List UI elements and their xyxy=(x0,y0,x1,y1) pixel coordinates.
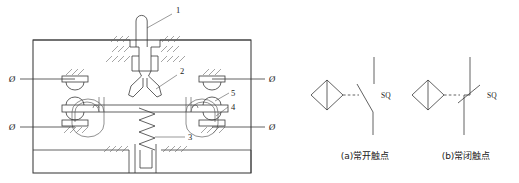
callout-4: 4 xyxy=(231,102,236,112)
callout-5: 5 xyxy=(231,88,235,98)
left-upper-hatching xyxy=(66,69,84,75)
housing-hatching-bottom xyxy=(104,146,187,152)
actuator-fork xyxy=(129,76,162,97)
right-contact-assembly xyxy=(199,69,265,133)
limit-switch-figure: Ø Ø Ø Ø 1 2 3 4 5 xyxy=(0,0,519,183)
callout-2: 2 xyxy=(180,66,184,76)
right-moving-contact xyxy=(203,97,221,105)
right-lower-contact-base xyxy=(199,120,225,126)
right-upper-contact-dome xyxy=(203,82,221,90)
terminal-left-bottom: Ø xyxy=(8,122,16,132)
top-housing xyxy=(33,36,251,71)
leader-2 xyxy=(156,75,177,89)
enclosure-outline xyxy=(33,40,251,173)
symbol-nc-contact: SQ (b)常闭触点 xyxy=(412,57,497,161)
bridge-bar xyxy=(62,105,228,112)
terminal-right-top: Ø xyxy=(268,74,276,84)
mechanism-drawing: Ø Ø Ø Ø 1 2 3 4 5 xyxy=(8,5,276,173)
figure-canvas: Ø Ø Ø Ø 1 2 3 4 5 xyxy=(0,0,519,183)
terminal-right-bottom: Ø xyxy=(268,122,276,132)
no-designator-sq: SQ xyxy=(381,91,391,100)
left-upper-contact-dome xyxy=(66,82,84,90)
callout-3: 3 xyxy=(188,132,192,142)
contact-bridge xyxy=(62,105,228,112)
left-moving-contact xyxy=(66,97,84,105)
no-caption: (a)常开触点 xyxy=(341,150,390,161)
leader-5 xyxy=(215,93,229,101)
right-upper-hatching xyxy=(203,69,221,75)
callout-1: 1 xyxy=(176,5,180,15)
nc-break-slash xyxy=(458,85,480,103)
plunger xyxy=(136,15,151,76)
terminal-left-top: Ø xyxy=(8,74,16,84)
left-contact-assembly xyxy=(20,69,88,133)
flexible-leads xyxy=(72,97,218,137)
symbol-no-contact: SQ (a)常开触点 xyxy=(311,57,391,161)
lower-guide xyxy=(33,144,251,173)
left-lower-hatching xyxy=(64,127,88,133)
top-cut-text-strip xyxy=(0,0,160,7)
right-lower-hatching xyxy=(201,127,225,133)
leader-1 xyxy=(147,14,172,28)
nc-designator-sq: SQ xyxy=(487,91,497,100)
return-spring xyxy=(139,108,155,150)
nc-caption: (b)常闭触点 xyxy=(442,150,491,161)
no-moving-blade xyxy=(357,84,373,112)
